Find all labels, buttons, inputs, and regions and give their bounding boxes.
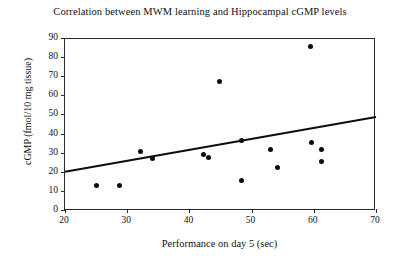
y-axis-tick — [61, 153, 65, 154]
x-axis-title: Performance on day 5 (sec) — [64, 238, 375, 249]
y-axis-tick-label: 30 — [36, 148, 58, 158]
y-axis-tick-label: 80 — [36, 52, 58, 62]
y-axis-tick-label: 50 — [36, 109, 58, 119]
y-axis-title: cGMP (fmol/10 mg tissue) — [22, 37, 33, 187]
y-axis-tick-label: 0 — [36, 205, 58, 215]
x-axis-tick — [65, 209, 66, 213]
x-axis-tick-labels: 203040506070 — [64, 216, 375, 230]
data-point — [206, 155, 211, 160]
y-axis-tick-label: 20 — [36, 167, 58, 177]
y-axis-tick-label: 70 — [36, 71, 58, 81]
y-axis-tick — [61, 76, 65, 77]
x-axis-tick — [127, 209, 128, 213]
x-axis-tick-label: 70 — [363, 216, 387, 226]
y-axis-tick-label: 10 — [36, 186, 58, 196]
y-axis-tick-label: 60 — [36, 90, 58, 100]
y-axis-tick — [61, 95, 65, 96]
x-axis-tick — [376, 209, 377, 213]
x-axis-tick-label: 40 — [176, 216, 200, 226]
y-axis-tick — [61, 57, 65, 58]
plot-area — [64, 38, 375, 210]
trend-line — [65, 38, 376, 210]
x-axis-tick-label: 20 — [52, 216, 76, 226]
data-point — [275, 165, 280, 170]
y-axis-tick-label: 40 — [36, 129, 58, 139]
x-axis-tick-label: 50 — [239, 216, 263, 226]
x-axis-tick-label: 60 — [301, 216, 325, 226]
y-axis-tick-labels: 0102030405060708090 — [36, 38, 58, 210]
y-axis-tick — [61, 114, 65, 115]
chart-title: Correlation between MWM learning and Hip… — [0, 6, 400, 17]
data-point — [150, 156, 155, 161]
x-axis-tick — [252, 209, 253, 213]
y-axis-tick — [61, 134, 65, 135]
data-point — [319, 159, 324, 164]
x-axis-tick — [189, 209, 190, 213]
y-axis-tick — [61, 38, 65, 39]
scatter-chart-figure: Correlation between MWM learning and Hip… — [0, 0, 400, 265]
x-axis-tick — [314, 209, 315, 213]
y-axis-tick — [61, 172, 65, 173]
y-axis-tick-label: 90 — [36, 33, 58, 43]
x-axis-tick-label: 30 — [114, 216, 138, 226]
y-axis-tick — [61, 191, 65, 192]
data-point — [239, 138, 244, 143]
